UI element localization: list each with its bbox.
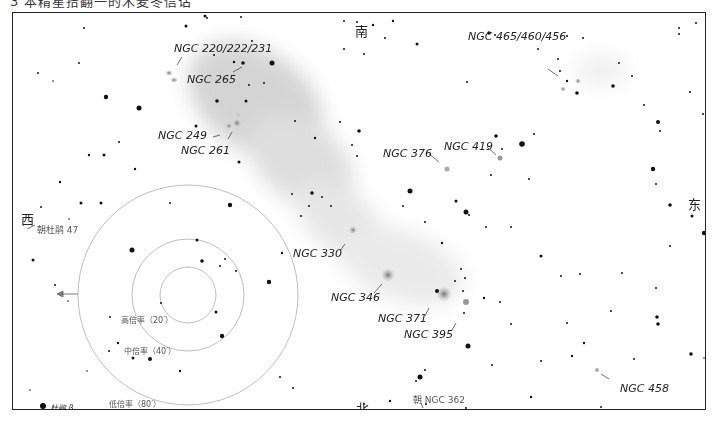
- west-arrow-icon: [57, 291, 78, 297]
- pointer-ngc362: 朝 NGC 362: [413, 393, 465, 406]
- direction-west: 西: [21, 209, 34, 228]
- mid-power-label: 中倍率（40′）: [124, 345, 176, 356]
- low-power-label: 低倍率（80′）: [109, 398, 161, 409]
- direction-south: 南: [355, 21, 368, 40]
- label-ngc465: NGC 465/460/456: [468, 30, 566, 43]
- label-ngc261: NGC 261: [181, 144, 230, 157]
- label-ngc395: NGC 395: [404, 328, 453, 341]
- label-ngc249: NGC 249: [158, 129, 207, 142]
- pointer-west-star: 朝杜鹃 47: [37, 223, 78, 236]
- star-field: [13, 13, 706, 410]
- direction-east: 东: [688, 194, 701, 213]
- label-ngc220: NGC 220/222/231: [174, 42, 272, 55]
- label-ngc346: NGC 346: [331, 291, 380, 304]
- legend-star-label: 杜鹃 β: [50, 402, 74, 410]
- direction-north: 北: [356, 398, 369, 410]
- label-ngc371: NGC 371: [378, 312, 427, 325]
- eyepiece-circles: [78, 185, 298, 405]
- label-ngc419: NGC 419: [444, 140, 493, 153]
- label-ngc376: NGC 376: [383, 147, 432, 160]
- page-title: 3 本精星拾翻一的木麦冬信诂: [10, 0, 192, 10]
- label-ngc330: NGC 330: [293, 247, 342, 260]
- label-ngc458: NGC 458: [620, 382, 669, 395]
- high-power-label: 高倍率（20′）: [121, 314, 173, 325]
- label-ngc265: NGC 265: [187, 73, 236, 86]
- star-chart: 南 北 东 西 朝杜鹃 47 朝 NGC 362 高倍率（20′） 中倍率（40…: [12, 12, 706, 410]
